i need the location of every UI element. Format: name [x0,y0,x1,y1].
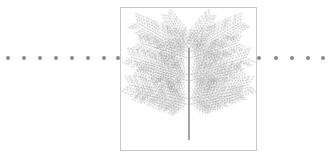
dot [290,56,294,60]
dot [274,56,278,60]
dot [70,56,74,60]
dot [54,56,58,60]
dot [6,56,10,60]
dot [321,56,325,60]
fractal-tree-illustration [121,8,256,150]
dot [38,56,42,60]
dot [102,56,106,60]
dot [22,56,26,60]
image-frame [120,7,257,151]
dot [306,56,310,60]
dot [86,56,90,60]
dot [257,56,261,60]
dot [116,56,120,60]
